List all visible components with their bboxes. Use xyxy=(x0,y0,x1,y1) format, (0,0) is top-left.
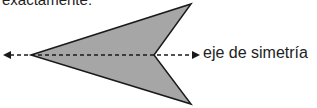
symmetry-axis-label: eje de simetría xyxy=(203,44,308,62)
left-arrow-icon xyxy=(3,51,11,59)
arrowhead-shape xyxy=(31,4,191,104)
right-arrow-icon xyxy=(192,51,200,59)
